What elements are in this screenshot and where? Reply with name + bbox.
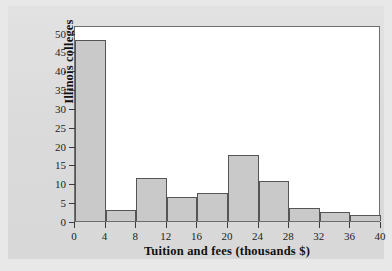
y-axis-tick-label: 40: [55, 65, 66, 77]
plot-area: [74, 26, 380, 222]
x-axis-tick-label: 12: [160, 230, 171, 242]
x-axis-tick: [380, 222, 381, 228]
x-axis-tick-label: 28: [283, 230, 294, 242]
y-axis-tick: [69, 147, 75, 148]
histogram-bar: [106, 210, 137, 221]
histogram-bar: [136, 178, 167, 221]
y-axis-tick: [69, 90, 75, 91]
histogram-bar: [289, 208, 320, 221]
histogram-bar: [259, 181, 290, 221]
histogram-bar: [167, 197, 198, 222]
x-axis-tick: [135, 222, 136, 228]
y-axis-tick-label: 25: [55, 122, 66, 134]
y-axis-tick: [69, 128, 75, 129]
chart-page: Illinois colleges 05101520253035404550 0…: [0, 0, 392, 271]
x-axis-tick: [258, 222, 259, 228]
y-axis: 05101520253035404550: [74, 26, 75, 222]
y-axis-tick-label: 50: [55, 28, 66, 40]
y-axis-tick-label: 45: [55, 46, 66, 58]
paper-background: Illinois colleges 05101520253035404550 0…: [8, 6, 384, 259]
x-axis-tick-label: 36: [344, 230, 355, 242]
x-axis-tick: [349, 222, 350, 228]
bars-layer: [75, 27, 379, 221]
y-axis-tick: [69, 165, 75, 166]
histogram-bar: [320, 212, 351, 221]
y-axis-tick: [69, 109, 75, 110]
x-axis-title: Tuition and fees (thousands $): [74, 244, 380, 259]
histogram-bar: [197, 193, 228, 221]
x-axis-tick-label: 4: [102, 230, 108, 242]
y-axis-tick: [69, 184, 75, 185]
y-axis-tick-label: 0: [61, 216, 67, 228]
y-axis-tick-label: 35: [55, 84, 66, 96]
x-axis-tick-label: 8: [132, 230, 138, 242]
x-axis-tick-label: 20: [222, 230, 233, 242]
histogram-bar: [75, 40, 106, 221]
x-axis-tick-label: 0: [71, 230, 77, 242]
x-axis: 0481216202428323640: [74, 222, 380, 223]
x-axis-tick: [166, 222, 167, 228]
x-axis-tick: [319, 222, 320, 228]
y-axis-tick: [69, 52, 75, 53]
y-axis-tick: [69, 34, 75, 35]
histogram-bar: [350, 215, 381, 221]
y-axis-tick-label: 15: [55, 159, 66, 171]
y-axis-tick: [69, 71, 75, 72]
y-axis-tick: [69, 203, 75, 204]
y-axis-tick-label: 20: [55, 141, 66, 153]
x-axis-tick-label: 16: [191, 230, 202, 242]
histogram-bar: [228, 155, 259, 221]
x-axis-tick: [288, 222, 289, 228]
x-axis-tick: [74, 222, 75, 228]
x-axis-tick: [105, 222, 106, 228]
x-axis-tick-label: 32: [313, 230, 324, 242]
y-axis-tick-label: 5: [61, 197, 67, 209]
y-axis-tick-label: 10: [55, 178, 66, 190]
x-axis-tick: [196, 222, 197, 228]
x-axis-tick: [227, 222, 228, 228]
y-axis-tick-label: 30: [55, 103, 66, 115]
x-axis-tick-label: 40: [375, 230, 386, 242]
x-axis-tick-label: 24: [252, 230, 263, 242]
